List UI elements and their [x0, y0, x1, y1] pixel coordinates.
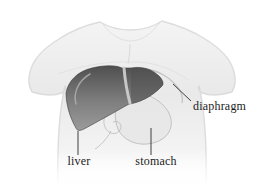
label-stomach: stomach — [135, 155, 176, 168]
anatomy-figure: liver stomach diaphragm — [0, 0, 264, 183]
torso-illustration — [0, 0, 264, 183]
label-liver: liver — [68, 155, 91, 168]
bottom-fade — [0, 148, 264, 183]
label-diaphragm: diaphragm — [193, 100, 246, 113]
